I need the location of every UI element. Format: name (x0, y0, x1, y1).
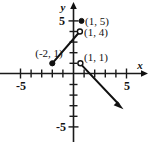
x-axis-label: x (136, 59, 143, 71)
graph-canvas: y x 5 -5 -5 5 (1, 5) (1, 4) (-2, 1) (1, … (0, 0, 151, 142)
x-tick-label-neg5: -5 (16, 79, 26, 93)
x-axis-arrowhead (141, 70, 148, 77)
point-label-1-4: (1, 4) (84, 26, 108, 39)
point-neg2-1-marker (50, 61, 55, 66)
ray-arrowhead (114, 101, 124, 109)
point-label-neg2-1: (-2, 1) (35, 47, 63, 60)
ray-body (82, 65, 119, 104)
y-axis-arrowhead (70, 2, 77, 9)
x-tick-label-5: 5 (124, 79, 130, 93)
y-axis-label: y (59, 1, 66, 13)
y-tick-label-5: 5 (59, 14, 65, 28)
coordinate-plane-figure: y x 5 -5 -5 5 (1, 5) (1, 4) (-2, 1) (1, … (0, 0, 151, 142)
point-1-1-marker (78, 61, 83, 66)
point-label-1-1: (1, 1) (84, 51, 108, 64)
point-1-4-marker (77, 29, 82, 34)
y-axis (69, 2, 79, 142)
y-tick-label-neg5: -5 (56, 120, 66, 134)
point-1-5-marker (79, 18, 84, 23)
line-ray-right (82, 65, 124, 109)
